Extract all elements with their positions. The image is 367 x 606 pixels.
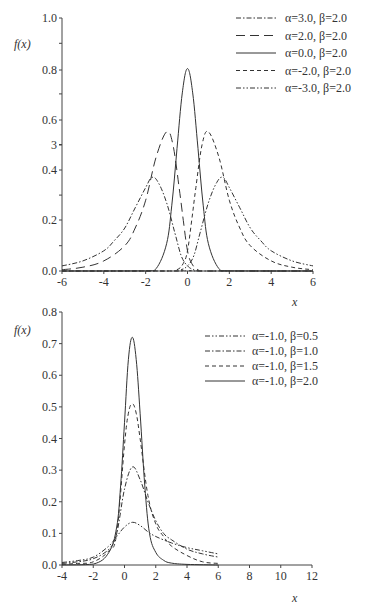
- x-tick-label: -2: [88, 569, 98, 583]
- legend: α=3.0, β=2.0α=2.0, β=2.0α=0.0, β=2.0α=-2…: [236, 11, 351, 95]
- y-tick-label: 3: [51, 138, 57, 152]
- x-tick-label: 12: [306, 569, 318, 583]
- series-line: [62, 69, 313, 271]
- y-axis-title: f(x): [14, 323, 31, 337]
- series-line: [62, 467, 218, 564]
- y-tick-label: 0.4: [42, 163, 57, 177]
- x-tick-label: -2: [141, 275, 151, 289]
- legend-label: α=3.0, β=2.0: [285, 11, 347, 25]
- legend-label: α=-1.0, β=2.0: [252, 374, 318, 388]
- x-tick-label: 4: [268, 275, 274, 289]
- y-axis: 0.00.10.20.30.40.50.60.70.8: [42, 305, 62, 572]
- legend-label: α=-1.0, β=0.5: [252, 329, 318, 343]
- y-tick-label: 0.2: [42, 495, 57, 509]
- legend-label: α=2.0, β=2.0: [285, 29, 347, 43]
- x-axis: -6-4-20246: [57, 271, 316, 289]
- x-tick-label: 6: [215, 569, 221, 583]
- legend-label: α=-1.0, β=1.5: [252, 359, 318, 373]
- y-tick-label: 0.7: [42, 337, 57, 351]
- x-axis: -4-2024681012: [57, 565, 318, 583]
- legend: α=-1.0, β=0.5α=-1.0, β=1.0α=-1.0, β=1.5α…: [205, 329, 318, 388]
- x-tick-label: 8: [247, 569, 253, 583]
- figure: 0.00.20.430.60.81.0 -6-4-20246 α=3.0, β=…: [0, 0, 367, 606]
- y-tick-label: 0.0: [42, 558, 57, 572]
- series-line: [62, 131, 313, 271]
- x-tick-label: 10: [275, 569, 287, 583]
- y-tick-label: 0.3: [42, 463, 57, 477]
- y-tick-label: 1.0: [42, 11, 57, 25]
- y-axis: 0.00.20.430.60.81.0: [42, 11, 62, 278]
- y-tick-label: 0.0: [42, 264, 57, 278]
- y-tick-label: 0.6: [42, 368, 57, 382]
- x-tick-label: 0: [122, 569, 128, 583]
- y-axis-title: f(x): [14, 37, 31, 51]
- series-line: [62, 522, 218, 562]
- x-tick-label: 2: [153, 569, 159, 583]
- x-tick-label: 6: [310, 275, 316, 289]
- series-line: [62, 404, 218, 565]
- x-tick-label: -4: [57, 569, 67, 583]
- legend-label: α=0.0, β=2.0: [285, 46, 347, 60]
- series-line: [62, 177, 313, 271]
- x-tick-label: -6: [57, 275, 67, 289]
- legend-label: α=-1.0, β=1.0: [252, 344, 318, 358]
- plot-lines: [62, 337, 218, 565]
- bottom-chart: 0.00.10.20.30.40.50.60.70.8 -4-202468101…: [14, 305, 318, 605]
- x-tick-label: 4: [184, 569, 190, 583]
- x-tick-label: 0: [185, 275, 191, 289]
- plot-lines: [62, 69, 313, 271]
- legend-label: α=-3.0, β=2.0: [285, 81, 351, 95]
- series-line: [62, 177, 313, 271]
- y-tick-label: 0.4: [42, 432, 57, 446]
- x-axis-title: x: [291, 295, 298, 309]
- y-tick-label: 0.2: [42, 213, 57, 227]
- top-chart: 0.00.20.430.60.81.0 -6-4-20246 α=3.0, β=…: [14, 11, 351, 309]
- x-tick-label: 2: [226, 275, 232, 289]
- y-tick-label: 0.5: [42, 400, 57, 414]
- y-tick-label: 0.8: [42, 305, 57, 319]
- series-line: [62, 337, 218, 565]
- x-tick-label: -4: [99, 275, 109, 289]
- legend-label: α=-2.0, β=2.0: [285, 64, 351, 78]
- y-tick-label: 0.6: [42, 113, 57, 127]
- x-axis-title: x: [291, 591, 298, 605]
- y-tick-label: 0.8: [42, 63, 57, 77]
- y-tick-label: 0.1: [42, 526, 57, 540]
